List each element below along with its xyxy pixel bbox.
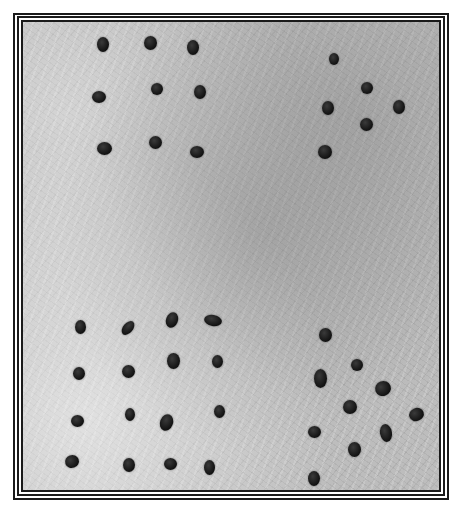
seed-top-right [329,53,339,65]
seed-bottom-left [214,405,225,418]
seed-top-left [149,136,162,149]
seed-bottom-right [351,359,363,371]
seed-bottom-left [122,365,135,378]
seed-bottom-right [308,426,321,438]
seed-top-left [92,91,106,103]
textured-surface [23,22,439,490]
photo-frame [21,20,441,492]
seed-top-left [190,146,204,158]
seed-bottom-right [348,442,361,457]
seed-bottom-right [314,369,327,388]
seed-top-left [144,36,157,50]
seed-top-left [97,37,109,52]
seed-bottom-left [125,408,135,421]
seed-top-left [187,40,199,55]
seed-top-right [318,145,332,159]
seed-bottom-left [167,353,180,369]
seed-top-left [97,142,112,155]
seed-bottom-left [204,460,215,475]
seed-top-right [361,82,373,94]
seed-bottom-left [71,415,84,427]
seed-top-right [360,118,373,131]
seed-top-left [194,85,206,99]
seed-top-right [322,101,334,115]
seed-top-right [393,100,405,114]
seed-bottom-right [319,328,332,342]
seed-bottom-right [343,400,357,414]
seed-bottom-right [308,471,320,486]
seed-bottom-left [164,458,177,470]
seed-bottom-left [123,458,135,472]
seed-bottom-left [73,367,85,380]
seed-bottom-left [212,355,223,368]
seed-top-left [151,83,163,95]
seed-bottom-left [75,320,86,334]
